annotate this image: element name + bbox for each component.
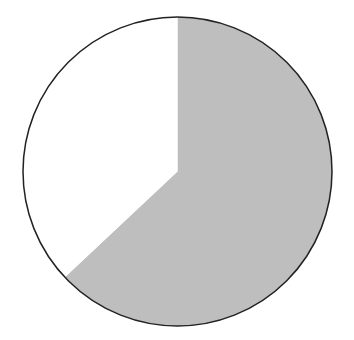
pie-chart-canvas: [0, 0, 354, 340]
pie-chart: [0, 0, 354, 340]
pie-slices: [23, 17, 332, 326]
